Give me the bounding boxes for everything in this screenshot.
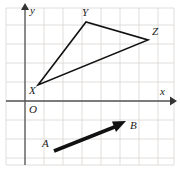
vector-AB-shaft — [54, 126, 117, 151]
vector-AB — [54, 121, 126, 151]
point-label-B: B — [130, 120, 137, 131]
x-axis-arrowhead — [170, 97, 177, 106]
triangle-XYZ — [38, 22, 148, 85]
x-axis-label: x — [160, 86, 165, 97]
vector-AB-arrowhead — [112, 121, 126, 132]
y-axis-arrowhead — [21, 3, 29, 10]
vertex-label-Z: Z — [152, 26, 158, 37]
origin-label: O — [29, 104, 37, 115]
coordinate-figure: X Y Z A B O x y — [0, 0, 180, 171]
y-axis-label: y — [30, 5, 35, 16]
vertex-label-Y: Y — [82, 7, 88, 18]
point-label-A: A — [42, 138, 49, 149]
vertex-label-X: X — [29, 85, 36, 96]
